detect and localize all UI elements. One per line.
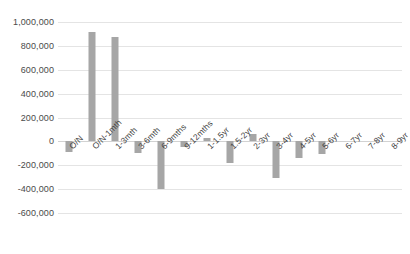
bar[interactable] bbox=[249, 134, 256, 142]
bar[interactable] bbox=[135, 141, 142, 153]
bar-slot bbox=[310, 22, 333, 213]
bar[interactable] bbox=[318, 141, 325, 154]
y-axis-tick-label: 400,000 bbox=[0, 89, 54, 99]
bar-slot bbox=[219, 22, 242, 213]
bar-slot bbox=[81, 22, 104, 213]
bar[interactable] bbox=[226, 141, 233, 163]
bar-series bbox=[58, 22, 402, 213]
bar-slot bbox=[379, 22, 402, 213]
y-axis-tick-label: 1,000,000 bbox=[0, 17, 54, 27]
bar[interactable] bbox=[181, 141, 188, 146]
y-axis-tick-label: -400,000 bbox=[0, 184, 54, 194]
bar-slot bbox=[58, 22, 81, 213]
bar-slot bbox=[150, 22, 173, 213]
y-axis-tick-label: -600,000 bbox=[0, 208, 54, 218]
y-axis-tick-label: 600,000 bbox=[0, 65, 54, 75]
bar-slot bbox=[264, 22, 287, 213]
bar-slot bbox=[333, 22, 356, 213]
bar-slot bbox=[196, 22, 219, 213]
bar[interactable] bbox=[272, 141, 279, 178]
bar[interactable] bbox=[204, 138, 211, 141]
bar-slot bbox=[127, 22, 150, 213]
bar[interactable] bbox=[66, 141, 73, 152]
bar-slot bbox=[104, 22, 127, 213]
y-axis-tick-label: 0 bbox=[0, 136, 54, 146]
y-axis-tick-label: 800,000 bbox=[0, 41, 54, 51]
bar-slot bbox=[241, 22, 264, 213]
bar-slot bbox=[287, 22, 310, 213]
bar[interactable] bbox=[89, 32, 96, 142]
y-axis-tick-label: -200,000 bbox=[0, 160, 54, 170]
bar[interactable] bbox=[112, 37, 119, 141]
bar-slot bbox=[173, 22, 196, 213]
y-axis-labels: 1,000,000800,000600,000400,000200,0000-2… bbox=[0, 0, 54, 254]
gridline bbox=[58, 213, 402, 214]
bar-slot bbox=[356, 22, 379, 213]
bar[interactable] bbox=[295, 141, 302, 158]
y-axis-tick-label: 200,000 bbox=[0, 113, 54, 123]
bar[interactable] bbox=[158, 141, 165, 188]
